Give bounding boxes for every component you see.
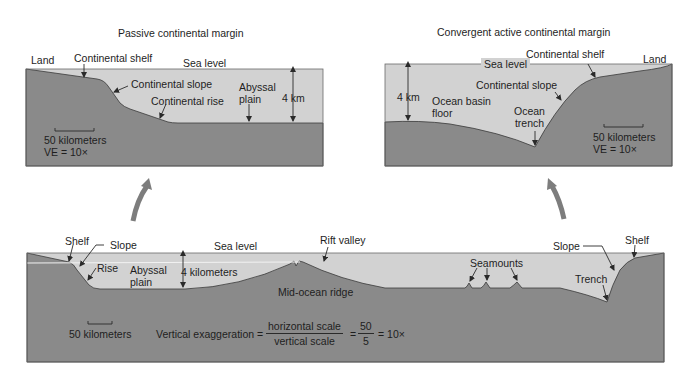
label-ve: VE = 10× xyxy=(593,143,637,155)
ocean-basin-line-2: floor xyxy=(432,107,452,119)
label-abyssal-plain: Abyssal plain xyxy=(239,81,276,105)
label-sea-level: Sea level xyxy=(183,57,226,69)
label-ocean-basin-floor: Ocean basin floor xyxy=(432,95,491,119)
label-abyssal-plain: Abyssal plain xyxy=(130,264,167,288)
label-continental-shelf: Continental shelf xyxy=(74,52,152,64)
label-continental-shelf: Continental shelf xyxy=(526,48,604,60)
formula-lhs: Vertical exaggeration = xyxy=(156,328,263,340)
label-continental-slope: Continental slope xyxy=(476,79,557,91)
arrow-to-active xyxy=(552,186,564,219)
active-margin-title: Convergent active continental margin xyxy=(437,26,610,38)
label-land: Land xyxy=(31,54,54,66)
formula-num2: 50 xyxy=(358,320,374,334)
label-depth: 4 km xyxy=(282,92,305,104)
label-depth: 4 kilometers xyxy=(181,266,238,278)
abyssal-line-1: Abyssal xyxy=(239,81,276,93)
label-ocean-trench: Ocean trench xyxy=(514,105,545,129)
formula-result: = 10× xyxy=(378,328,405,340)
ocean-trench-line-1: Ocean xyxy=(514,105,545,117)
ocean-basin-line-1: Ocean basin xyxy=(432,95,491,107)
passive-margin-title: Passive continental margin xyxy=(118,27,243,39)
abyssal-line-2: plain xyxy=(130,276,152,288)
label-slope-left: Slope xyxy=(110,239,137,251)
label-scale: 50 kilometers xyxy=(44,134,106,146)
formula-denominator: vertical scale xyxy=(274,334,335,347)
label-ve: VE = 10× xyxy=(44,146,88,158)
formula-numerator: horizontal scale xyxy=(266,320,343,334)
arrow-to-passive xyxy=(133,186,147,221)
label-continental-rise: Continental rise xyxy=(151,95,224,107)
label-scale: 50 kilometers xyxy=(593,131,655,143)
label-sea-level: Sea level xyxy=(214,240,257,252)
label-seamounts: Seamounts xyxy=(470,257,523,269)
label-shelf-left: Shelf xyxy=(65,235,89,247)
formula-equals: = xyxy=(350,328,356,340)
label-rise: Rise xyxy=(97,262,118,274)
label-continental-slope: Continental slope xyxy=(131,78,212,90)
formula-fraction-1: horizontal scale vertical scale xyxy=(266,320,343,347)
label-land: Land xyxy=(643,53,666,65)
label-shelf-right: Shelf xyxy=(625,234,649,246)
label-scale: 50 kilometers xyxy=(69,328,131,340)
abyssal-line-1: Abyssal xyxy=(130,264,167,276)
label-mid-ocean-ridge: Mid-ocean ridge xyxy=(278,286,353,298)
label-rift-valley: Rift valley xyxy=(320,234,366,246)
ocean-profile-panel xyxy=(27,245,664,362)
formula-den2: 5 xyxy=(363,334,369,347)
label-trench: Trench xyxy=(575,273,607,285)
formula-fraction-2: 50 5 xyxy=(358,320,374,347)
label-sea-level: Sea level xyxy=(481,58,530,70)
ocean-trench-line-2: trench xyxy=(515,117,544,129)
abyssal-line-2: plain xyxy=(239,93,261,105)
label-depth: 4 km xyxy=(397,91,420,103)
label-slope-right: Slope xyxy=(553,240,580,252)
